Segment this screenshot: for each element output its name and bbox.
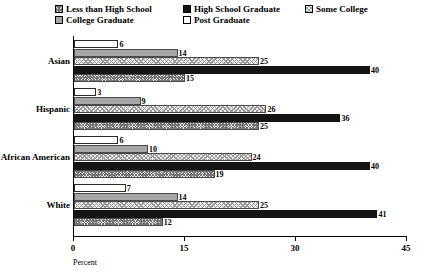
plot-area: 0153045 Asian614254015Hispanic39263625Af… <box>73 36 406 236</box>
bar-value-label: 25 <box>260 201 268 210</box>
bar-value-label: 26 <box>267 105 275 114</box>
bar: 25 <box>74 201 259 209</box>
bar: 15 <box>74 74 185 82</box>
bar-value-label: 10 <box>149 144 157 153</box>
legend-swatch-gray-icon <box>55 16 63 24</box>
bar: 19 <box>74 170 215 178</box>
legend-swatch-white-icon <box>183 16 191 24</box>
bar: 24 <box>74 153 252 161</box>
bar-value-label: 25 <box>260 57 268 66</box>
bar: 40 <box>74 162 370 170</box>
legend-item-some-college: Some College <box>305 4 368 14</box>
bar-value-label: 24 <box>253 153 261 162</box>
x-tick-mark <box>184 236 185 241</box>
x-tick-label: 15 <box>180 243 189 253</box>
bar-value-label: 6 <box>119 40 123 49</box>
bar-value-label: 14 <box>179 48 187 57</box>
bar: 25 <box>74 122 259 130</box>
legend-label: Post Graduate <box>194 15 250 25</box>
legend-label: Less than High School <box>66 4 152 14</box>
bar-chart: Less than High School College Graduate H… <box>0 0 433 272</box>
legend-swatch-hatch-icon <box>55 5 63 13</box>
category-label: White <box>47 200 71 210</box>
x-tick-mark <box>295 236 296 241</box>
bar: 6 <box>74 136 118 144</box>
chart-legend: Less than High School College Graduate H… <box>55 4 430 30</box>
category-label: African American <box>1 152 70 162</box>
bar: 41 <box>74 210 377 218</box>
bar-group: Asian614254015 <box>74 40 406 83</box>
legend-label: College Graduate <box>66 15 134 25</box>
bar-value-label: 3 <box>97 88 101 97</box>
category-label: Asian <box>48 56 70 66</box>
bar: 6 <box>74 40 118 48</box>
bar-value-label: 41 <box>378 209 386 218</box>
legend-item-post-graduate: Post Graduate <box>183 15 250 25</box>
category-label: Hispanic <box>36 104 70 114</box>
bar: 10 <box>74 145 148 153</box>
legend-label: Some College <box>316 4 368 14</box>
x-tick-label: 0 <box>71 243 76 253</box>
bar-value-label: 9 <box>142 96 146 105</box>
bar-value-label: 12 <box>164 218 172 227</box>
bar: 25 <box>74 57 259 65</box>
bar: 3 <box>74 88 96 96</box>
bar-value-label: 7 <box>127 184 131 193</box>
bar-value-label: 19 <box>216 170 224 179</box>
legend-swatch-black-icon <box>183 5 191 13</box>
bar-group: African American610244019 <box>74 136 406 179</box>
bar-value-label: 14 <box>179 192 187 201</box>
bar-value-label: 6 <box>119 136 123 145</box>
bar: 14 <box>74 49 178 57</box>
bar: 12 <box>74 218 163 226</box>
legend-label: High School Graduate <box>194 4 280 14</box>
x-tick-label: 45 <box>402 243 411 253</box>
legend-item-high-school-graduate: High School Graduate <box>183 4 280 14</box>
bar-group: Hispanic39263625 <box>74 88 406 131</box>
legend-item-college-graduate: College Graduate <box>55 15 134 25</box>
bar-value-label: 15 <box>186 74 194 83</box>
bar: 40 <box>74 66 370 74</box>
x-tick-mark <box>406 236 407 241</box>
bar-group: White714254112 <box>74 184 406 227</box>
x-axis-title: Percent <box>73 258 97 267</box>
bar: 26 <box>74 105 266 113</box>
bar: 14 <box>74 193 178 201</box>
bar-value-label: 36 <box>341 113 349 122</box>
bar: 9 <box>74 97 141 105</box>
legend-item-less-than-high-school: Less than High School <box>55 4 152 14</box>
x-axis-line <box>73 236 406 237</box>
legend-swatch-light-hatch-icon <box>305 5 313 13</box>
bar-value-label: 25 <box>260 122 268 131</box>
x-tick-mark <box>73 236 74 241</box>
bar-value-label: 40 <box>371 65 379 74</box>
bar: 7 <box>74 184 126 192</box>
bar: 36 <box>74 114 340 122</box>
bar-value-label: 40 <box>371 161 379 170</box>
x-tick-label: 30 <box>291 243 300 253</box>
